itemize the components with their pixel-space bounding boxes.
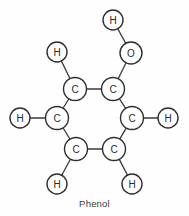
- atom-c6-c: C: [46, 107, 69, 130]
- atom-h1-h: H: [103, 10, 123, 30]
- atom-label-h4: H: [164, 113, 171, 124]
- bond-c-c: [62, 127, 71, 141]
- bond-c-h: [119, 158, 129, 177]
- atom-label-h1: H: [109, 15, 116, 26]
- bond-c-c: [119, 127, 127, 141]
- atom-h4-h: H: [158, 108, 178, 128]
- atom-label-c3: C: [128, 113, 135, 124]
- bond-c-h: [61, 158, 71, 177]
- atom-h5-h: H: [47, 174, 67, 194]
- atom-c1-c: C: [64, 78, 87, 101]
- atom-label-c6: C: [53, 113, 60, 124]
- atom-c5-c: C: [65, 138, 88, 161]
- atom-label-h6: H: [128, 179, 135, 190]
- atom-label-c4: C: [110, 144, 117, 155]
- bond-o-h: [117, 27, 126, 44]
- bond-c-h: [61, 60, 71, 80]
- atom-o1-o: O: [120, 42, 142, 64]
- atom-h2-h: H: [47, 42, 67, 62]
- atom-label-h5: H: [53, 179, 60, 190]
- atom-label-h3: H: [16, 113, 23, 124]
- atom-layer: CCCCCCOHHHHHH: [10, 10, 178, 194]
- atom-label-c5: C: [72, 144, 79, 155]
- atom-label-h2: H: [53, 47, 60, 58]
- atom-c3-c: C: [121, 107, 144, 130]
- atom-h6-h: H: [122, 174, 142, 194]
- atom-h3-h: H: [10, 108, 30, 128]
- atom-label-c1: C: [71, 84, 78, 95]
- atom-c4-c: C: [103, 138, 126, 161]
- phenol-structure-svg: CCCCCCOHHHHHH: [0, 0, 189, 216]
- bond-c-o: [117, 62, 126, 81]
- atom-c2-c: C: [102, 78, 125, 101]
- atom-label-o1: O: [127, 48, 135, 59]
- figure-caption: Phenol: [0, 198, 189, 209]
- atom-label-c2: C: [109, 84, 116, 95]
- phenol-diagram-canvas: CCCCCCOHHHHHH Phenol: [0, 0, 189, 216]
